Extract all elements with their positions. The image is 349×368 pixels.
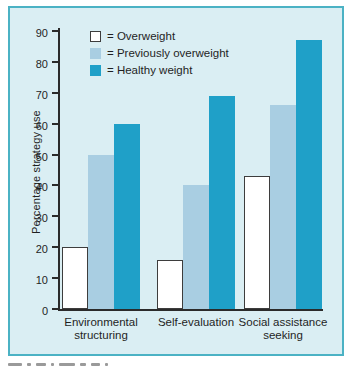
y-tick-label: 70 xyxy=(20,88,48,102)
y-tick-label: 50 xyxy=(20,150,48,164)
figure: = Overweight= Previously overweight= Hea… xyxy=(0,0,349,368)
plot-area xyxy=(58,28,323,311)
y-tick-mark xyxy=(52,308,60,310)
y-tick-label: 10 xyxy=(20,273,48,287)
bar-healthy-weight xyxy=(114,124,140,309)
y-tick-label: 40 xyxy=(20,180,48,194)
y-tick-label: 20 xyxy=(20,242,48,256)
caption-mark xyxy=(105,363,108,366)
y-tick-mark xyxy=(52,154,60,156)
y-tick-mark xyxy=(52,184,60,186)
y-tick-mark xyxy=(52,92,60,94)
x-category-label: Social assistance seeking xyxy=(231,316,335,342)
bar-previously-overweight xyxy=(183,185,209,309)
bar-healthy-weight xyxy=(209,96,235,309)
y-tick-mark xyxy=(52,277,60,279)
caption-mark xyxy=(36,363,46,366)
caption-mark xyxy=(8,363,22,366)
bar-overweight xyxy=(157,260,183,309)
y-tick-label: 90 xyxy=(20,26,48,40)
y-tick-label: 80 xyxy=(20,57,48,71)
y-tick-mark xyxy=(52,246,60,248)
y-tick-mark xyxy=(52,61,60,63)
bar-overweight xyxy=(244,176,270,309)
y-tick-mark xyxy=(52,215,60,217)
x-category-label: Environmental structuring xyxy=(49,316,153,342)
y-tick-mark xyxy=(52,30,60,32)
y-axis-tick-labels: 0102030405060708090 xyxy=(20,28,48,311)
y-tick-mark xyxy=(52,123,60,125)
y-tick-label: 60 xyxy=(20,119,48,133)
bar-previously-overweight xyxy=(270,105,296,309)
caption-mark xyxy=(91,363,100,366)
caption-mark xyxy=(51,363,54,366)
caption-mark xyxy=(27,363,31,366)
caption-mark xyxy=(59,363,75,366)
bar-healthy-weight xyxy=(296,40,322,309)
caption-mark xyxy=(80,363,86,366)
bar-previously-overweight xyxy=(88,155,114,309)
x-axis-category-labels: Environmental structuringSelf-evaluation… xyxy=(0,316,349,346)
y-tick-label: 30 xyxy=(20,211,48,225)
bar-overweight xyxy=(62,247,88,309)
clipped-caption-fragment xyxy=(8,363,108,366)
